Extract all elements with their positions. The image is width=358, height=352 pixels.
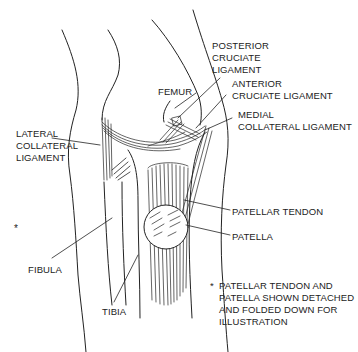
label-patellar-tendon: PATELLAR TENDON (232, 206, 323, 218)
femur-notch (163, 101, 170, 122)
medial-collateral-fibers (180, 126, 212, 224)
label-lateral-collateral-ligament: LATERAL COLLATERAL LIGAMENT (16, 128, 78, 164)
label-posterior-cruciate-ligament: POSTERIOR CRUCIATE LIGAMENT (212, 40, 269, 76)
footnote-marker: * (210, 280, 214, 292)
asterisk-mark: * (14, 223, 18, 234)
leg-outline-left (62, 30, 86, 352)
fibula (104, 182, 112, 305)
leader-lines (52, 78, 232, 302)
label-medial-collateral-ligament: MEDIAL COLLATERAL LIGAMENT (238, 109, 352, 133)
cruciate-ligaments (160, 116, 200, 143)
tibia-right (189, 132, 205, 318)
label-patella: PATELLA (232, 231, 273, 243)
femur-left-edge (102, 30, 120, 120)
label-femur: FEMUR (158, 86, 192, 98)
footnote: * PATELLAR TENDON AND PATELLA SHOWN DETA… (210, 280, 354, 328)
tibia-left (128, 150, 140, 318)
fibula-right (122, 182, 126, 305)
label-fibula: FIBULA (28, 264, 62, 276)
femur-right-edge (152, 20, 201, 125)
lateral-collateral-ligament-fibers (102, 118, 112, 180)
fibula-head-fibers (112, 158, 130, 180)
label-tibia: TIBIA (102, 306, 126, 318)
joint-ligaments (102, 122, 207, 151)
label-anterior-cruciate-ligament: ANTERIOR CRUCIATE LIGAMENT (232, 78, 333, 102)
patella-circle (144, 205, 188, 249)
